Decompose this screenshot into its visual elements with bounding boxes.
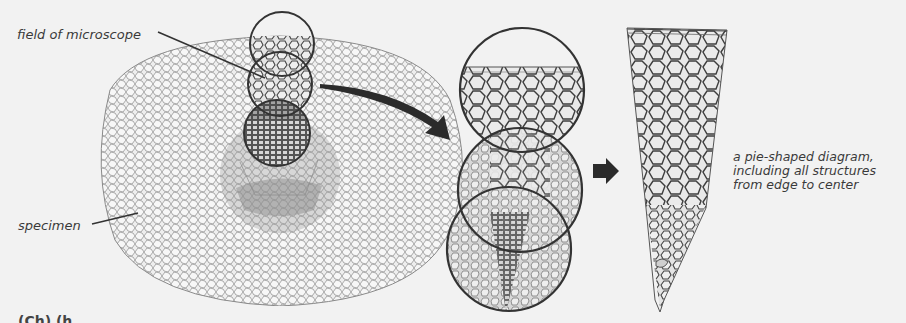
- label-pie-line-2: including all structures: [733, 164, 906, 178]
- label-specimen: specimen: [18, 218, 81, 233]
- label-pie-line-3: from edge to center: [733, 178, 906, 192]
- label-field-of-microscope: field of microscope: [17, 27, 141, 42]
- pie-diagram-panel: [620, 28, 730, 315]
- block-arrow-icon: [593, 158, 619, 184]
- label-pie-line-1: a pie-shaped diagram,: [733, 150, 906, 164]
- cutoff-caption: (Ch) (h: [18, 314, 72, 323]
- specimen-panel: [92, 12, 463, 306]
- magnified-panel: [445, 28, 619, 312]
- label-pie-diagram: a pie-shaped diagram, including all stru…: [733, 150, 906, 192]
